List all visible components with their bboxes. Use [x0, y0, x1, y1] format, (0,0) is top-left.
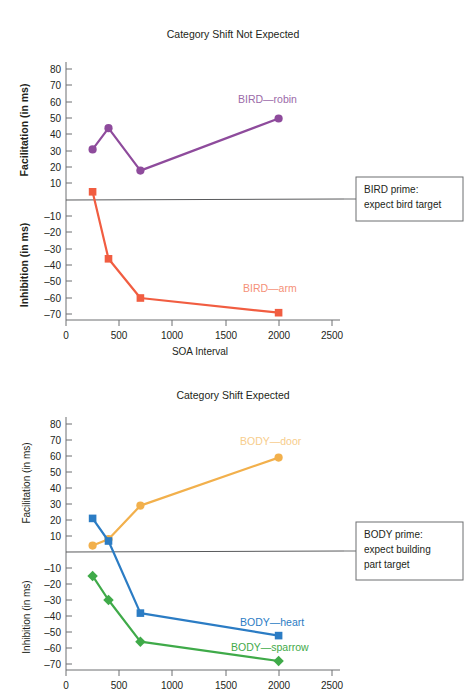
zero-baseline-bottom	[66, 551, 344, 552]
zero-baseline-top	[66, 199, 344, 200]
y-axis-title-inhibition-top: Inhibition (in ms)	[18, 223, 30, 308]
series-label-bird-robin: BIRD—robin	[238, 93, 297, 105]
x-tick-labels-bottom: 0 500 1000 1500 2000 2500	[63, 680, 343, 691]
y-tick-label: –40	[44, 611, 61, 622]
series-label-body-sparrow: BODY—sparrow	[231, 641, 309, 653]
annotation-line: BIRD prime:	[364, 184, 418, 195]
x-tick-label: 0	[63, 330, 69, 341]
y-axis-title-inhibition-bottom: Inhibition (in ms)	[21, 580, 32, 653]
y-tick-label: 60	[50, 97, 62, 108]
y-tick-label: –50	[44, 627, 61, 638]
x-tick-label: 500	[111, 330, 128, 341]
y-tick-label: –20	[44, 579, 61, 590]
x-tick-label: 0	[63, 680, 69, 691]
y-axis-title-facilitation-top: Facilitation (in ms)	[18, 84, 30, 177]
y-tick-label: –10	[44, 563, 61, 574]
chart-title-bottom: Category Shift Expected	[176, 389, 289, 401]
svg-top-chart: Category Shift Not Expected 80 70	[0, 0, 467, 355]
y-tick-label: –40	[44, 260, 61, 271]
y-tick-label: –30	[44, 244, 61, 255]
series-line-bird-robin	[93, 119, 279, 171]
series-line-body-door	[93, 458, 279, 546]
y-tick-label: 70	[50, 80, 62, 91]
y-tick-label: 10	[50, 178, 62, 189]
chart-panel-category-shift-expected: Category Shift Expected 80 70 60 50 4	[0, 355, 467, 699]
x-ticks-bottom	[66, 670, 332, 676]
y-tick-label: –70	[44, 659, 61, 670]
y-tick-label: –20	[44, 227, 61, 238]
y-tick-labels-bottom: 80 70 60 50 40 30 20 10 –10 –20 –30 –40 …	[44, 419, 61, 670]
series-label-body-door: BODY—door	[240, 435, 302, 447]
y-ticks-bottom	[66, 424, 72, 664]
x-tick-label: 2500	[321, 330, 344, 341]
y-tick-label: 80	[50, 64, 62, 75]
y-tick-label: 10	[50, 531, 62, 542]
x-axis-title-top: SOA Interval	[172, 346, 228, 355]
y-tick-label: 40	[50, 129, 62, 140]
x-tick-label: 2500	[321, 680, 344, 691]
y-tick-label: –10	[44, 211, 61, 222]
x-tick-label: 1500	[215, 330, 238, 341]
series-label-body-heart: BODY—heart	[240, 616, 304, 628]
y-axis-title-facilitation-bottom: Facilitation (in ms)	[21, 442, 32, 523]
x-tick-label: 2000	[268, 330, 291, 341]
y-tick-label: 50	[50, 467, 62, 478]
y-tick-label: 60	[50, 451, 62, 462]
x-tick-label: 500	[111, 680, 128, 691]
series-markers-body-door	[89, 454, 283, 550]
series-line-bird-arm	[93, 192, 279, 313]
annotation-line: BODY prime:	[364, 529, 423, 540]
y-tick-label: 20	[50, 515, 62, 526]
y-tick-label: 70	[50, 435, 62, 446]
y-tick-labels-top: 80 70 60 50 40 30 20 10 –10 –20 –30 –40 …	[44, 64, 61, 320]
y-tick-label: –30	[44, 595, 61, 606]
y-tick-label: 50	[50, 113, 62, 124]
y-tick-label: 80	[50, 419, 62, 430]
y-tick-label: 20	[50, 162, 62, 173]
y-tick-label: –50	[44, 276, 61, 287]
series-label-bird-arm: BIRD—arm	[243, 282, 297, 294]
series-markers-bird-arm	[89, 188, 283, 317]
x-tick-label: 2000	[268, 680, 291, 691]
x-tick-label: 1500	[215, 680, 238, 691]
y-tick-label: –60	[44, 293, 61, 304]
y-tick-label: 40	[50, 483, 62, 494]
y-ticks-top	[66, 69, 72, 314]
y-tick-label: 30	[50, 146, 62, 157]
chart-title-top: Category Shift Not Expected	[167, 28, 300, 40]
annotation-line: expect building	[364, 544, 431, 555]
x-tick-label: 1000	[161, 330, 184, 341]
series-markers-bird-robin	[89, 114, 283, 174]
y-tick-label: –60	[44, 643, 61, 654]
chart-panel-category-shift-not-expected: Category Shift Not Expected 80 70	[0, 0, 467, 355]
annotation-line: part target	[364, 559, 410, 570]
x-tick-label: 1000	[161, 680, 184, 691]
x-tick-labels-top: 0 500 1000 1500 2000 2500	[63, 330, 343, 341]
x-ticks-top	[66, 320, 332, 326]
y-tick-label: –70	[44, 309, 61, 320]
y-tick-label: 30	[50, 499, 62, 510]
annotation-line: expect bird target	[364, 199, 441, 210]
svg-bottom-chart: Category Shift Expected 80 70 60 50 4	[0, 355, 467, 699]
